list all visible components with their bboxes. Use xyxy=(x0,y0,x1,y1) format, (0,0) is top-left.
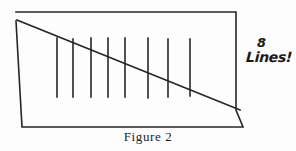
figure-page: 8 Lines! Figure 2 xyxy=(0,0,296,151)
annotation-8-lines: 8 Lines! xyxy=(246,36,296,64)
annotation-count: 8 xyxy=(257,36,296,50)
quadrilateral-outline xyxy=(16,12,243,127)
figure-caption: Figure 2 xyxy=(0,129,296,145)
diagonal-line xyxy=(17,20,240,110)
annotation-word: Lines! xyxy=(246,50,296,65)
